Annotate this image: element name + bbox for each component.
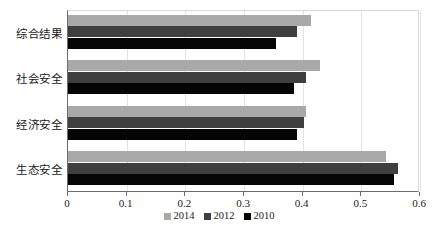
bar-综合结果-2014 [68,15,311,26]
category-label-综合结果: 综合结果 [0,25,62,41]
bar-经济安全-2014 [68,106,306,117]
plot-area [67,10,419,192]
horizontal-bar-chart: 综合结果社会安全经济安全生态安全 00.10.20.30.40.50.6 201… [0,0,438,241]
legend-label: 2010 [254,211,275,222]
bar-经济安全-2012 [68,117,304,128]
legend-item-2012: 2012 [204,211,235,222]
bar-生态安全-2012 [68,163,398,174]
tick-mark [302,192,303,196]
tick-mark [67,192,68,196]
tick-mark [184,192,185,196]
tick-label-0.4: 0.4 [295,197,309,209]
category-label-生态安全: 生态安全 [0,161,62,177]
category-label-社会安全: 社会安全 [0,70,62,86]
tick-mark [360,192,361,196]
tick-label-0.2: 0.2 [177,197,191,209]
tick-label-0: 0 [64,197,70,209]
bar-生态安全-2010 [68,174,394,185]
legend-label: 2014 [174,211,195,222]
bar-经济安全-2010 [68,129,297,140]
legend-swatch-icon [164,213,171,220]
tick-mark [419,192,420,196]
bar-社会安全-2014 [68,60,320,71]
tick-label-0.3: 0.3 [236,197,250,209]
legend-item-2010: 2010 [244,211,275,222]
bar-综合结果-2010 [68,38,276,49]
tick-mark [126,192,127,196]
tick-mark [243,192,244,196]
bar-综合结果-2012 [68,26,297,37]
tick-label-0.1: 0.1 [119,197,133,209]
legend-item-2014: 2014 [164,211,195,222]
category-label-经济安全: 经济安全 [0,116,62,132]
legend-swatch-icon [244,213,251,220]
chart-legend: 201420122010 [0,211,438,222]
legend-swatch-icon [204,213,211,220]
bar-社会安全-2010 [68,83,294,94]
bar-社会安全-2012 [68,72,306,83]
bar-生态安全-2014 [68,151,386,162]
tick-label-0.6: 0.6 [412,197,426,209]
gridline [420,11,421,191]
legend-label: 2012 [214,211,235,222]
tick-label-0.5: 0.5 [353,197,367,209]
